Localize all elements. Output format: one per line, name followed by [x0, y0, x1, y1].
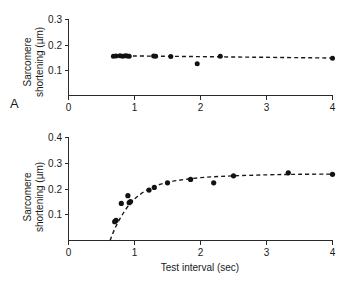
- panel-b-xtick-label-3: 3: [264, 247, 270, 258]
- data-point: [286, 170, 291, 175]
- panel-a-axis-lines: [69, 20, 333, 96]
- panel-a-letter: A: [10, 97, 19, 110]
- panel-a-y-ticks: 0.1 0.2 0.3: [48, 14, 68, 76]
- data-point: [125, 193, 130, 198]
- panel-b-y-ticks: 0.1 0.2 0.3 0.4: [48, 132, 68, 220]
- panel-b-xtick-label-1: 1: [132, 247, 138, 258]
- panel-a-ytick-label-2: 0.3: [48, 14, 62, 25]
- panel-b-ytick-label-3: 0.4: [48, 132, 62, 143]
- panel-a-xtick-label-0: 0: [66, 102, 72, 113]
- panel-b-y-axis-title-line2: shortening (µm): [34, 162, 45, 232]
- data-point: [218, 54, 223, 59]
- panel-b-x-ticks: 0 1 2 3 4: [66, 241, 336, 259]
- panel-b-axis-lines: [69, 138, 333, 241]
- panel-a-xtick-label-2: 2: [198, 102, 204, 113]
- panel-a-xtick-label-3: 3: [264, 102, 270, 113]
- data-point: [330, 172, 335, 177]
- panel-b-xtick-label-4: 4: [330, 247, 336, 258]
- panel-a-plot: Sarcomere shortening (µm) 0.1 0.2 0.3: [0, 0, 344, 141]
- panel-a-x-ticks: 0 1 2 3 4: [66, 96, 336, 114]
- data-point: [152, 185, 157, 190]
- data-point: [188, 177, 193, 182]
- panel-a-xtick-label-1: 1: [132, 102, 138, 113]
- panel-b-x-axis-title: Test interval (sec): [161, 262, 239, 273]
- figure-container: Sarcomere shortening (µm) 0.1 0.2 0.3: [0, 0, 344, 283]
- panel-b-xtick-label-0: 0: [66, 247, 72, 258]
- panel-b-fit-curve: [110, 174, 332, 240]
- panel-a-datapoints: [111, 53, 335, 66]
- data-point: [330, 56, 335, 61]
- data-point: [231, 173, 236, 178]
- panel-a-ytick-label-0: 0.1: [48, 65, 62, 76]
- data-point: [153, 54, 158, 59]
- data-point: [128, 199, 133, 204]
- panel-a-ytick-label-1: 0.2: [48, 40, 62, 51]
- data-point: [119, 201, 124, 206]
- data-point: [127, 54, 132, 59]
- panel-b-xtick-label-2: 2: [198, 247, 204, 258]
- data-point: [168, 54, 173, 59]
- data-point: [165, 180, 170, 185]
- panel-b-datapoints: [112, 170, 335, 224]
- panel-a-y-axis-title: Sarcomere shortening (µm): [22, 27, 45, 97]
- panel-a-y-axis-title-line1: Sarcomere: [22, 37, 33, 86]
- panel-b-ytick-label-2: 0.3: [48, 158, 62, 169]
- data-point: [211, 180, 216, 185]
- panel-a-xtick-label-4: 4: [330, 102, 336, 113]
- data-point: [146, 187, 151, 192]
- data-point: [113, 218, 118, 223]
- panel-b-y-axis-title-line1: Sarcomere: [22, 172, 33, 221]
- panel-a-y-axis-title-line2: shortening (µm): [34, 27, 45, 97]
- panel-b-y-axis-title: Sarcomere shortening (µm): [22, 162, 45, 232]
- data-point: [195, 61, 200, 66]
- panel-b-ytick-label-1: 0.2: [48, 184, 62, 195]
- panel-b-plot: Sarcomere shortening (µm) 0.1 0.2 0.3 0.…: [0, 125, 344, 283]
- panel-b: Sarcomere shortening (µm) 0.1 0.2 0.3 0.…: [0, 125, 344, 283]
- panel-b-ytick-label-0: 0.1: [48, 209, 62, 220]
- panel-a: Sarcomere shortening (µm) 0.1 0.2 0.3: [0, 0, 344, 141]
